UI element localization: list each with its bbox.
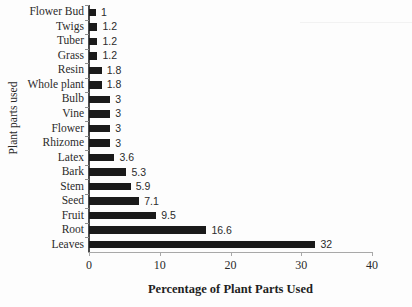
bar [89,241,315,249]
bar-value-label: 5.9 [136,181,151,192]
y-axis-category-label: Flower Bud [29,6,84,18]
x-axis-tick [372,252,373,256]
bar [89,139,110,147]
bar [89,212,156,220]
y-axis-tick [85,20,89,21]
bar-chart: Flower BudTwigsTuberGrassResinWhole plan… [0,0,412,307]
y-axis-category-label: Bark [62,166,84,178]
bar [89,81,102,89]
y-axis-category-label: Tuber [57,35,84,47]
bar-value-label: 16.6 [211,225,231,236]
bar-value-label: 32 [320,239,332,250]
x-axis-tick-label: 30 [295,259,307,271]
bar [89,38,97,46]
y-axis-category-label: Bulb [62,93,84,105]
bar [89,168,126,176]
y-axis-category-label: Flower [51,123,84,135]
y-axis-category-label: Seed [62,195,84,207]
y-axis-tick [85,5,89,6]
y-axis-category-label: Leaves [51,239,84,251]
bar-value-label: 3 [115,94,121,105]
y-axis-tick [85,223,89,224]
y-axis-category-label: Twigs [56,21,84,33]
bar [89,226,206,234]
y-axis-tick [85,179,89,180]
y-axis-tick [85,237,89,238]
x-axis-tick-label: 10 [154,259,166,271]
y-axis-category-label: Whole plant [27,79,84,91]
x-axis-title: Percentage of Plant Parts Used [89,282,372,297]
y-axis-tick [85,150,89,151]
y-axis-category-label: Root [62,224,84,236]
y-axis-tick [85,194,89,195]
y-axis-category-label: Latex [58,152,84,164]
y-axis-tick [85,78,89,79]
x-axis-tick [160,252,161,256]
bar-value-label: 7.1 [144,196,159,207]
x-axis-tick-label: 40 [366,259,378,271]
y-axis-tick [85,63,89,64]
bar [89,96,110,104]
y-axis-category-label: Stem [60,181,84,193]
bar [89,110,110,118]
y-axis-tick [85,34,89,35]
y-axis-tick [85,107,89,108]
y-axis-category-label: Vine [62,108,84,120]
y-axis-category-label: Fruit [62,210,84,222]
bar-value-label: 1.8 [107,79,122,90]
y-axis-tick [85,121,89,122]
plot-area: 11.21.21.21.81.833333.65.35.97.19.516.63… [89,5,372,252]
bar-value-label: 9.5 [161,210,176,221]
x-axis-tick [89,252,90,256]
y-axis-tick [85,92,89,93]
bar [89,125,110,133]
bar-value-label: 3.6 [119,152,134,163]
y-axis-category-label: Rhizome [42,137,84,149]
bar-value-label: 3 [115,138,121,149]
y-axis-tick [85,136,89,137]
y-axis-tick [85,208,89,209]
y-axis-category-label: Grass [58,50,84,62]
bar [89,197,139,205]
bar-value-label: 1.8 [107,65,122,76]
bar-value-label: 1.2 [102,36,117,47]
x-axis-tick-label: 20 [225,259,237,271]
x-axis-tick [231,252,232,256]
x-axis-tick [301,252,302,256]
bar-value-label: 1.2 [102,50,117,61]
x-axis-tick-label: 0 [86,259,92,271]
bar [89,23,97,31]
y-axis-category-label: Resin [58,64,84,76]
bar-value-label: 5.3 [131,167,146,178]
y-axis-tick [85,49,89,50]
bar-value-label: 3 [115,123,121,134]
bar [89,183,131,191]
y-axis-title: Plant parts used [7,53,19,183]
y-axis-tick [85,165,89,166]
bar-value-label: 3 [115,108,121,119]
bar [89,67,102,75]
bar-value-label: 1.2 [102,21,117,32]
bar-value-label: 1 [101,7,107,18]
bar [89,9,96,17]
bar [89,154,114,162]
bar [89,52,97,60]
